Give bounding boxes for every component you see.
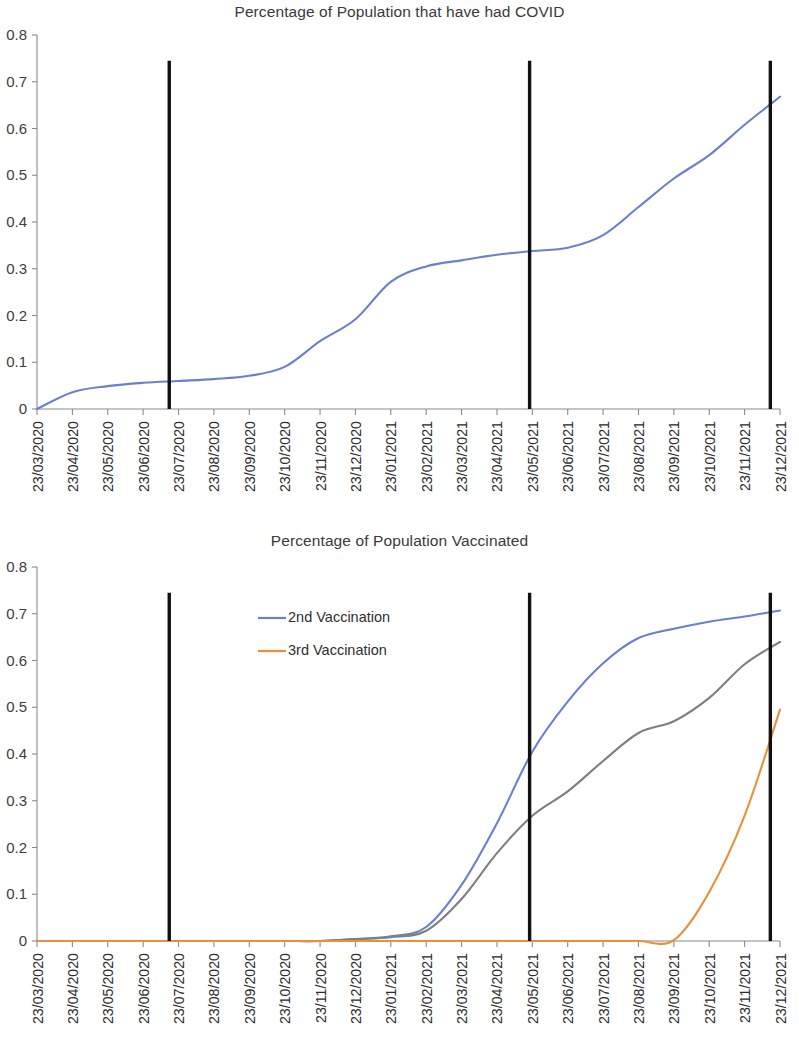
y-tick-label: 0.3 bbox=[6, 260, 27, 277]
y-tick-label: 0.7 bbox=[6, 73, 27, 90]
x-tick-label: 23/05/2020 bbox=[100, 421, 116, 492]
x-tick-label: 23/12/2021 bbox=[773, 953, 789, 1024]
x-tick-label: 23/04/2020 bbox=[65, 953, 81, 1024]
y-tick-label: 0 bbox=[19, 932, 27, 949]
y-tick-label: 0.7 bbox=[6, 605, 27, 622]
x-tick-label: 23/04/2021 bbox=[489, 953, 505, 1024]
x-tick-label: 23/02/2021 bbox=[419, 421, 435, 492]
x-tick-label: 23/02/2021 bbox=[419, 953, 435, 1024]
y-tick-label: 0 bbox=[19, 400, 27, 417]
x-tick-label: 23/04/2021 bbox=[489, 421, 505, 492]
x-tick-label: 23/03/2020 bbox=[30, 953, 46, 1024]
x-tick-label: 23/07/2020 bbox=[171, 421, 187, 492]
series-line bbox=[37, 610, 780, 941]
x-tick-label: 23/01/2021 bbox=[383, 421, 399, 492]
y-tick-label: 0.8 bbox=[6, 26, 27, 43]
legend-label: 3rd Vaccination bbox=[288, 642, 387, 658]
y-tick-label: 0.6 bbox=[6, 652, 27, 669]
x-tick-label: 23/10/2020 bbox=[277, 421, 293, 492]
y-tick-label: 0.5 bbox=[6, 166, 27, 183]
legend-label: 2nd Vaccination bbox=[288, 609, 390, 625]
vaccination-chart-block: Percentage of Population Vaccinated 0.80… bbox=[0, 521, 799, 1041]
series-line bbox=[37, 97, 780, 409]
vaccination-chart-plot: 0.80.70.60.50.40.30.20.1023/03/202023/04… bbox=[0, 521, 799, 1041]
x-tick-label: 23/03/2020 bbox=[30, 421, 46, 492]
x-tick-label: 23/04/2020 bbox=[65, 421, 81, 492]
x-tick-label: 23/05/2020 bbox=[100, 953, 116, 1024]
x-tick-label: 23/08/2020 bbox=[206, 953, 222, 1024]
x-tick-label: 23/07/2020 bbox=[171, 953, 187, 1024]
series-line bbox=[37, 642, 780, 941]
x-tick-label: 23/06/2021 bbox=[560, 421, 576, 492]
y-tick-label: 0.8 bbox=[6, 558, 27, 575]
x-tick-label: 23/12/2020 bbox=[348, 953, 364, 1024]
x-tick-label: 23/11/2021 bbox=[737, 953, 753, 1023]
x-tick-label: 23/05/2021 bbox=[525, 953, 541, 1024]
y-tick-label: 0.2 bbox=[6, 839, 27, 856]
x-tick-label: 23/08/2021 bbox=[631, 421, 647, 492]
x-tick-label: 23/07/2021 bbox=[596, 421, 612, 492]
covid-chart-block: Percentage of Population that have had C… bbox=[0, 0, 799, 520]
x-tick-label: 23/07/2021 bbox=[596, 953, 612, 1024]
x-tick-label: 23/09/2021 bbox=[666, 421, 682, 492]
x-tick-label: 23/03/2021 bbox=[454, 421, 470, 492]
covid-chart-plot: 0.80.70.60.50.40.30.20.1023/03/202023/04… bbox=[0, 0, 799, 520]
x-tick-label: 23/06/2021 bbox=[560, 953, 576, 1024]
y-tick-label: 0.4 bbox=[6, 745, 27, 762]
y-tick-label: 0.1 bbox=[6, 353, 27, 370]
x-tick-label: 23/11/2020 bbox=[313, 421, 329, 491]
x-tick-label: 23/08/2021 bbox=[631, 953, 647, 1024]
x-tick-label: 23/10/2021 bbox=[702, 953, 718, 1024]
x-tick-label: 23/11/2020 bbox=[313, 953, 329, 1023]
x-tick-label: 23/08/2020 bbox=[206, 421, 222, 492]
x-tick-label: 23/12/2020 bbox=[348, 421, 364, 492]
x-tick-label: 23/01/2021 bbox=[383, 953, 399, 1024]
chart-page: Percentage of Population that have had C… bbox=[0, 0, 799, 1041]
y-tick-label: 0.2 bbox=[6, 307, 27, 324]
x-tick-label: 23/09/2021 bbox=[666, 953, 682, 1024]
x-tick-label: 23/05/2021 bbox=[525, 421, 541, 492]
y-tick-label: 0.4 bbox=[6, 213, 27, 230]
x-tick-label: 23/11/2021 bbox=[737, 421, 753, 491]
x-tick-label: 23/12/2021 bbox=[773, 421, 789, 492]
x-tick-label: 23/09/2020 bbox=[242, 421, 258, 492]
y-tick-label: 0.5 bbox=[6, 698, 27, 715]
x-tick-label: 23/09/2020 bbox=[242, 953, 258, 1024]
y-tick-label: 0.6 bbox=[6, 120, 27, 137]
x-tick-label: 23/10/2021 bbox=[702, 421, 718, 492]
x-tick-label: 23/06/2020 bbox=[136, 421, 152, 492]
y-tick-label: 0.1 bbox=[6, 885, 27, 902]
x-tick-label: 23/03/2021 bbox=[454, 953, 470, 1024]
y-tick-label: 0.3 bbox=[6, 792, 27, 809]
x-tick-label: 23/10/2020 bbox=[277, 953, 293, 1024]
series-line bbox=[37, 710, 780, 944]
x-tick-label: 23/06/2020 bbox=[136, 953, 152, 1024]
